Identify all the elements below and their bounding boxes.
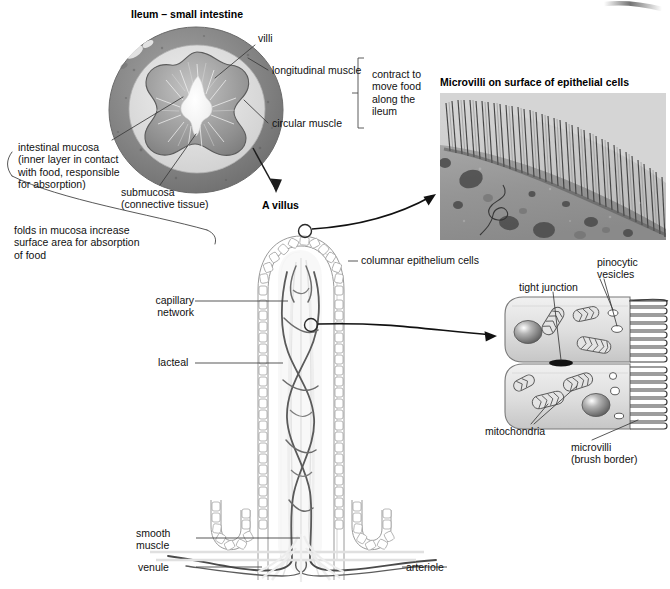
label-mitochondria: mitochondria xyxy=(485,425,545,437)
label-villi: villi xyxy=(258,32,273,44)
label-intestinal-mucosa: intestinal mucosa (inner layer in contac… xyxy=(18,141,120,190)
label-lacteal: lacteal xyxy=(158,356,188,368)
label-submucosa: submucosa (connective tissue) xyxy=(121,186,209,211)
villus-title: A villus xyxy=(262,199,299,212)
label-smooth-muscle: smooth muscle xyxy=(136,527,170,552)
label-pinocytic-vesicles: pinocytic vesicles xyxy=(597,256,638,281)
figure-canvas: Ileum – small intestine villi longitudin… xyxy=(0,0,670,589)
ileum-title: Ileum – small intestine xyxy=(131,8,243,21)
label-longitudinal-muscle: longitudinal muscle xyxy=(272,64,361,76)
label-tight-junction: tight junction xyxy=(519,281,578,293)
note-folds-in-mucosa: folds in mucosa increase surface area fo… xyxy=(14,224,140,261)
label-microvilli-brush-border: microvilli (brush border) xyxy=(571,441,638,466)
label-arteriole: arteriole xyxy=(406,561,444,573)
label-venule: venule xyxy=(138,561,169,573)
label-circular-muscle: circular muscle xyxy=(272,117,342,129)
label-capillary-network: capillary network xyxy=(152,294,194,319)
label-columnar-epithelium-cells: columnar epithelium cells xyxy=(361,254,479,266)
note-contract-to-move-food: contract to move food along the ileum xyxy=(372,68,421,117)
microvilli-photo-title: Microvilli on surface of epithelial cell… xyxy=(440,76,629,89)
